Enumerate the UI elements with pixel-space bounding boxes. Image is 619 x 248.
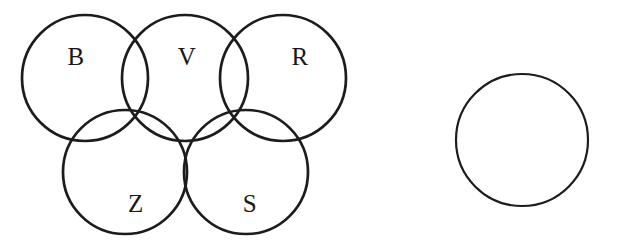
circle-b[interactable] — [22, 15, 148, 141]
label-z: Z — [128, 190, 144, 217]
standalone-circle-group — [456, 74, 588, 206]
figure-root: B V R Z S — [0, 0, 619, 248]
venn-diagram-canvas: B V R Z S — [0, 0, 619, 248]
label-v: V — [178, 43, 197, 70]
circle-z[interactable] — [63, 110, 187, 234]
label-s: S — [243, 190, 257, 217]
standalone-circle[interactable] — [456, 74, 588, 206]
label-r: R — [291, 43, 308, 70]
label-b: B — [67, 43, 84, 70]
circle-v[interactable] — [122, 15, 248, 141]
